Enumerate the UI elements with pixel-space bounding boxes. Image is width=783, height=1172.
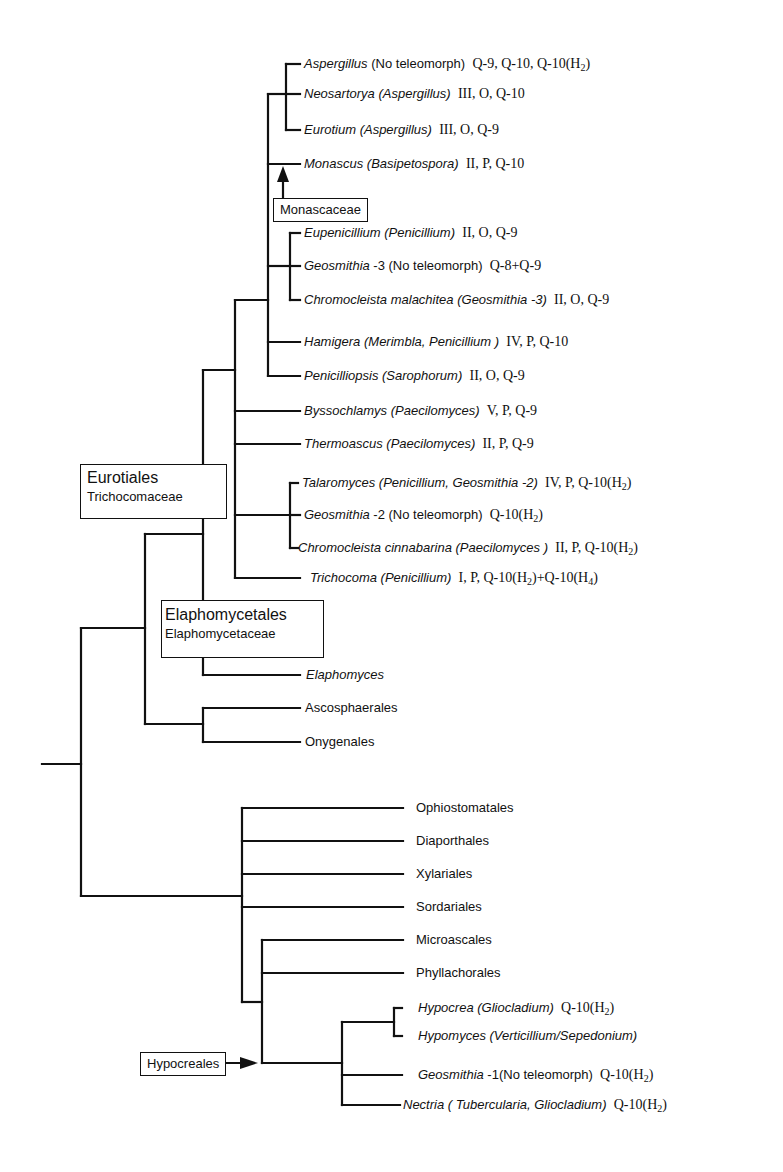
elaphomycetaceae-family-label: Elaphomycetaceae <box>165 625 320 643</box>
eurotiales-label-box: Eurotiales Trichocomaceae <box>80 464 227 519</box>
traits-text: I, P, Q-10(H <box>459 570 527 585</box>
ubiquinone-traits: II, O, Q-9 <box>462 225 517 240</box>
elaphomycetales-order-label: Elaphomycetales <box>165 605 320 625</box>
traits-text: III, O, Q-9 <box>439 122 499 137</box>
traits-tail: ) <box>649 1067 654 1082</box>
anamorph-name: (Penicillium) <box>381 225 455 240</box>
traits-tail: ) <box>662 1097 667 1112</box>
anamorph-name: (Aspergillus) <box>375 86 451 101</box>
taxon-microascales: Microascales <box>416 932 492 948</box>
hypocreales-arrowhead-icon <box>240 1057 258 1069</box>
anamorph-name: (Paecilomyces ) <box>452 540 548 555</box>
traits-text: Q-8+Q-9 <box>490 258 541 273</box>
taxon-sordariales: Sordariales <box>416 899 482 915</box>
taxon-neosartorya: Neosartorya (Aspergillus) III, O, Q-10 <box>304 86 525 102</box>
traits-text: Q-10(H <box>490 507 534 522</box>
genus-name: Chromocleista cinnabarina <box>298 540 452 555</box>
genus-name: Geosmithia <box>304 507 370 522</box>
anamorph-name: (Gliocladium) <box>474 1000 554 1015</box>
ubiquinone-traits: Q-10(H2) <box>614 1097 667 1112</box>
anamorph-name: -2 (No teleomorph) <box>370 507 483 522</box>
ubiquinone-traits: Q-9, Q-10, Q-10(H2) <box>472 56 590 71</box>
taxon-hamigera: Hamigera (Merimbla, Penicillium ) IV, P,… <box>304 334 568 350</box>
traits-tail: ) <box>593 570 598 585</box>
elaphomycetales-label-box: Elaphomycetales Elaphomycetaceae <box>161 600 324 658</box>
ubiquinone-traits: II, O, Q-9 <box>554 292 609 307</box>
genus-name: Nectria <box>403 1097 444 1112</box>
hypocreales-label-box: Hypocreales <box>140 1052 226 1076</box>
ubiquinone-traits: II, P, Q-10(H2) <box>555 540 638 555</box>
tree-branches <box>0 0 783 1172</box>
truncated-caption-text <box>0 1165 300 1172</box>
anamorph-name: (Sarophorum) <box>378 368 462 383</box>
taxon-chromocleista-cinnabarina: Chromocleista cinnabarina (Paecilomyces … <box>298 540 638 556</box>
traits-text: Q-10(H <box>600 1067 644 1082</box>
order-name: Phyllachorales <box>416 965 501 980</box>
traits-text: II, O, Q-9 <box>469 368 524 383</box>
ubiquinone-traits: II, O, Q-9 <box>469 368 524 383</box>
traits-tail: ) <box>627 475 632 490</box>
anamorph-name: (Aspergillus) <box>356 122 432 137</box>
traits-text: IV, P, Q-10 <box>506 334 568 349</box>
genus-name: Talaromyces <box>302 475 375 490</box>
taxon-hypomyces: Hypomyces (Verticillium/Sepedonium) <box>418 1028 637 1044</box>
ubiquinone-traits: IV, P, Q-10(H2) <box>545 475 631 490</box>
traits-text: III, O, Q-10 <box>458 86 525 101</box>
taxon-onygenales: Onygenales <box>305 734 374 750</box>
genus-name: Byssochlamys <box>304 403 387 418</box>
genus-name: Elaphomyces <box>306 667 384 682</box>
taxon-ascosphaerales: Ascosphaerales <box>305 700 398 716</box>
genus-name: Trichocoma <box>310 570 377 585</box>
genus-name: Eurotium <box>304 122 356 137</box>
taxon-geosmithia-2: Geosmithia -2 (No teleomorph) Q-10(H2) <box>304 507 543 523</box>
order-name: Diaporthales <box>416 833 489 848</box>
order-name: Xylariales <box>416 866 472 881</box>
taxon-trichocoma: Trichocoma (Penicillium) I, P, Q-10(H2)+… <box>310 570 598 586</box>
traits-text: II, P, Q-10 <box>466 156 524 171</box>
ubiquinone-traits: II, P, Q-10 <box>466 156 524 171</box>
eurotiales-order-label: Eurotiales <box>87 468 220 488</box>
genus-name: Hypomyces <box>418 1028 486 1043</box>
taxon-ophiostomatales: Ophiostomatales <box>416 800 514 816</box>
genus-name: Geosmithia <box>418 1067 484 1082</box>
taxon-phyllachorales: Phyllachorales <box>416 965 501 981</box>
taxon-eurotium: Eurotium (Aspergillus) III, O, Q-9 <box>304 122 499 138</box>
anamorph-name: -3 (No teleomorph) <box>370 258 483 273</box>
genus-name: Penicilliopsis <box>304 368 378 383</box>
traits-tail: ) <box>585 56 590 71</box>
anamorph-name: (Geosmithia -3) <box>454 292 547 307</box>
genus-name: Eupenicillium <box>304 225 381 240</box>
genus-name: Chromocleista malachitea <box>304 292 454 307</box>
ubiquinone-traits: III, O, Q-9 <box>439 122 499 137</box>
order-name: Ascosphaerales <box>305 700 398 715</box>
ubiquinone-traits: Q-10(H2) <box>490 507 543 522</box>
traits-text: II, P, Q-10(H <box>555 540 628 555</box>
anamorph-name: (Penicillium, Geosmithia -2) <box>375 475 538 490</box>
monascaceae-arrowhead-icon <box>277 166 289 182</box>
ubiquinone-traits: V, P, Q-9 <box>487 403 537 418</box>
traits-text: Q-9, Q-10, Q-10(H <box>472 56 580 71</box>
taxon-talaromyces: Talaromyces (Penicillium, Geosmithia -2)… <box>302 475 631 491</box>
genus-name: Monascus <box>304 156 363 171</box>
traits-tail: )+Q-10(H <box>532 570 588 585</box>
taxon-geosmithia-3: Geosmithia -3 (No teleomorph) Q-8+Q-9 <box>304 258 541 274</box>
traits-text: II, P, Q-9 <box>482 436 533 451</box>
taxon-geosmithia-1: Geosmithia -1(No teleomorph) Q-10(H2) <box>418 1067 653 1083</box>
genus-name: Hamigera <box>304 334 360 349</box>
taxon-diaporthales: Diaporthales <box>416 833 489 849</box>
anamorph-name: (Merimbla, Penicillium ) <box>360 334 499 349</box>
hypocreales-label: Hypocreales <box>147 1056 219 1071</box>
anamorph-name: -1(No teleomorph) <box>484 1067 593 1082</box>
taxon-hypocrea: Hypocrea (Gliocladium) Q-10(H2) <box>418 1000 614 1016</box>
traits-tail: ) <box>633 540 638 555</box>
traits-text: Q-10(H <box>614 1097 658 1112</box>
order-name: Microascales <box>416 932 492 947</box>
genus-name: Aspergillus <box>304 56 368 71</box>
genus-name: Hypocrea <box>418 1000 474 1015</box>
ubiquinone-traits: I, P, Q-10(H2)+Q-10(H4) <box>459 570 598 585</box>
order-name: Sordariales <box>416 899 482 914</box>
taxon-xylariales: Xylariales <box>416 866 472 882</box>
traits-text: II, O, Q-9 <box>462 225 517 240</box>
order-name: Onygenales <box>305 734 374 749</box>
anamorph-name: (Paecilomyces) <box>387 403 479 418</box>
